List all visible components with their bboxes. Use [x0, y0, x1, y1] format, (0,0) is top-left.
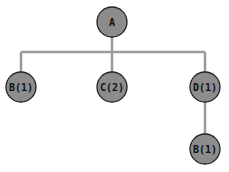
- node-b1-child-label: B(1): [193, 144, 217, 155]
- node-b1: B(1): [6, 72, 36, 102]
- node-a: A: [97, 7, 127, 37]
- node-a-label: A: [109, 17, 115, 28]
- tree-diagram: A B(1) C(2) D(1) B(1): [0, 0, 229, 172]
- node-d1: D(1): [190, 72, 220, 102]
- node-c2: C(2): [97, 72, 127, 102]
- node-b1-label: B(1): [9, 82, 33, 93]
- node-b1-child: B(1): [190, 134, 220, 164]
- node-c2-label: C(2): [100, 82, 124, 93]
- node-d1-label: D(1): [193, 82, 217, 93]
